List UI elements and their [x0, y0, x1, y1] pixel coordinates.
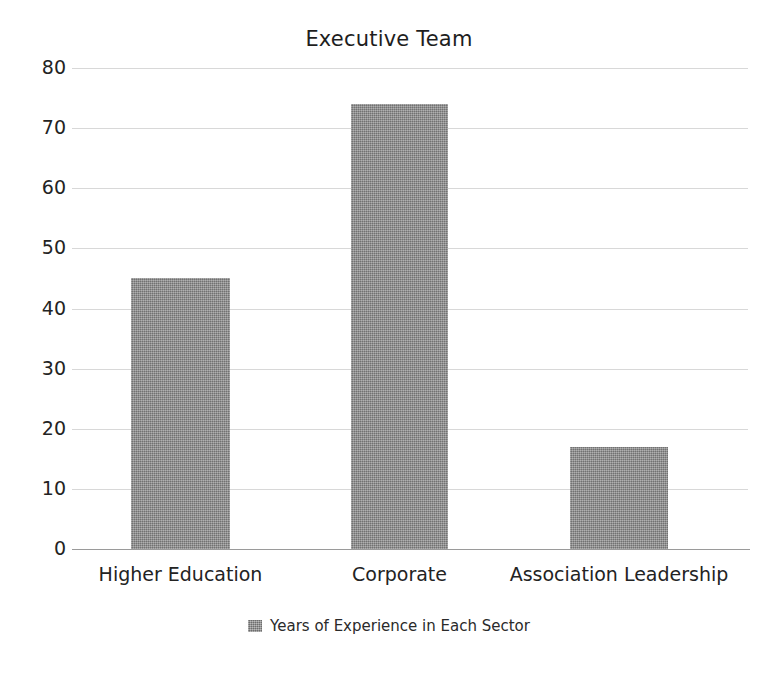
y-axis-tick-label: 50: [20, 238, 66, 257]
y-axis-tick-label: 40: [20, 299, 66, 318]
y-axis-tick-label: 60: [20, 178, 66, 197]
legend-swatch-icon: [248, 620, 262, 632]
bar[interactable]: [131, 278, 230, 549]
gridline: [72, 68, 748, 69]
y-axis-tick-label: 0: [20, 539, 66, 558]
plot-area: [72, 68, 748, 549]
bar[interactable]: [570, 447, 668, 549]
legend: Years of Experience in Each Sector: [0, 618, 778, 634]
chart-title: Executive Team: [0, 27, 778, 51]
y-axis-tick-label: 20: [20, 419, 66, 438]
bar[interactable]: [351, 104, 448, 549]
y-axis-tick-label: 10: [20, 479, 66, 498]
legend-item: Years of Experience in Each Sector: [248, 618, 530, 634]
x-axis-tick-label: Association Leadership: [469, 563, 769, 585]
legend-item-label: Years of Experience in Each Sector: [270, 618, 530, 634]
y-axis-tick-label: 70: [20, 118, 66, 137]
bar-chart: Executive Team 80706050403020100 Years o…: [0, 0, 778, 677]
x-axis-line: [72, 549, 750, 550]
y-axis-tick-label: 30: [20, 359, 66, 378]
y-axis-tick-label: 80: [20, 58, 66, 77]
